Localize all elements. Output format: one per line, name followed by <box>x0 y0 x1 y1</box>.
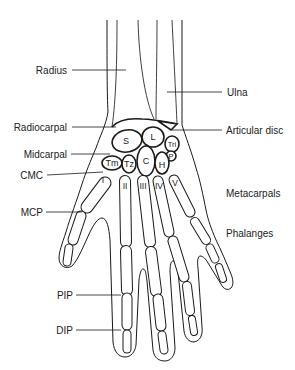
hamate-label: H <box>159 160 166 170</box>
ulna-bone-right-edge <box>172 20 177 124</box>
scaphoid-label: S <box>123 136 129 146</box>
pip-label: PIP <box>57 290 73 301</box>
hand-wrist-diagram: S L Tri P Tm Tz C H <box>0 0 295 370</box>
metacarpals-label: Metacarpals <box>226 188 280 199</box>
triquetrum-label: Tri <box>168 140 177 149</box>
carpal-bones: S L Tri P Tm Tz C H <box>102 127 179 176</box>
cmc-leader <box>47 172 103 175</box>
radius-label: Radius <box>36 65 67 76</box>
lunate-label: L <box>150 132 155 142</box>
thumb-bones <box>67 183 105 262</box>
radius-bone-right-edge <box>138 20 154 119</box>
articular-disc-label: Articular disc <box>226 125 283 136</box>
metacarpal-numeral-2: II <box>123 181 128 191</box>
trapezium-label: Tm <box>106 158 119 168</box>
trapezoid-label: Tz <box>124 159 134 169</box>
articular-disc-shape <box>158 121 177 130</box>
metacarpal-numeral-3: III <box>139 181 146 191</box>
ulna-bone-left-edge <box>156 20 157 119</box>
metacarpal-numeral-4: IV <box>155 181 163 191</box>
index-finger-bones <box>125 181 127 349</box>
radiocarpal-label: Radiocarpal <box>14 122 67 133</box>
capitate-label: C <box>143 156 150 166</box>
mcp-label: MCP <box>21 207 44 218</box>
ulna-label: Ulna <box>227 87 248 98</box>
forearm <box>112 20 177 130</box>
phalanges-label: Phalanges <box>226 228 273 239</box>
metacarpal-numeral-5: V <box>172 178 178 188</box>
metacarpal-numeral-1: I <box>102 175 104 185</box>
radius-bone-left-edge <box>112 20 117 127</box>
pisiform-label: P <box>168 152 173 161</box>
midcarpal-label: Midcarpal <box>24 149 67 160</box>
cmc-label: CMC <box>20 170 43 181</box>
dip-label: DIP <box>56 325 73 336</box>
